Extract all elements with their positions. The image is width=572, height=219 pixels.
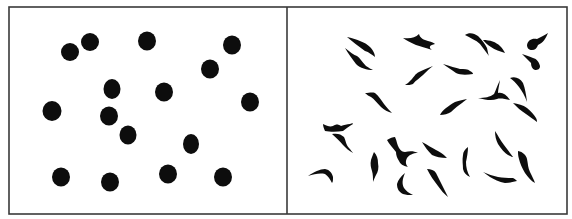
- round-dot: [241, 93, 259, 112]
- round-dot: [138, 32, 156, 51]
- diagram-figure: [0, 0, 572, 219]
- round-dot: [81, 33, 99, 51]
- background: [0, 0, 572, 219]
- round-dot: [214, 168, 232, 187]
- round-dot: [100, 107, 118, 126]
- round-dot: [43, 101, 62, 121]
- round-dot: [159, 165, 177, 184]
- round-dot: [120, 126, 137, 145]
- round-dot: [155, 83, 173, 102]
- round-dot: [223, 36, 241, 55]
- round-dot: [101, 173, 119, 192]
- round-dot: [201, 60, 219, 79]
- round-dot: [61, 43, 79, 61]
- round-dot: [104, 79, 121, 99]
- round-dot: [183, 134, 199, 154]
- round-dot: [52, 168, 70, 187]
